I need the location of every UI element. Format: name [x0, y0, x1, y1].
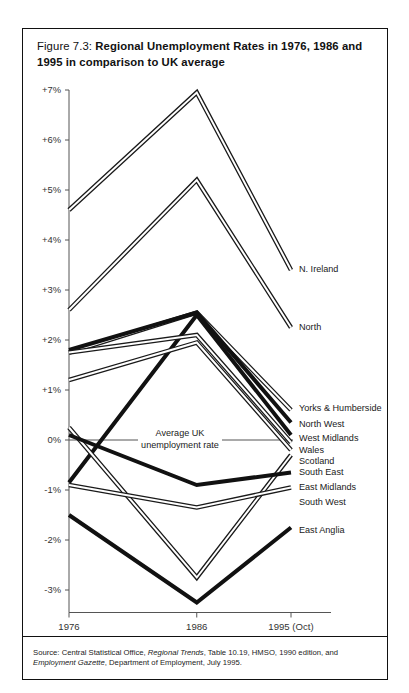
- x-axis: 197619861995 (Oct): [58, 613, 331, 632]
- source-mid: , Table 10.19, HMSO, 1990 edition, and: [204, 648, 338, 657]
- series-label-east-anglia: East Anglia: [299, 525, 345, 535]
- series-label-south-east: South East: [299, 467, 344, 477]
- series-line-wales: [69, 335, 291, 443]
- y-tick-label: -3%: [44, 584, 61, 595]
- series-label-west-midlands: West Midlands: [299, 433, 359, 443]
- x-tick-label: 1995 (Oct): [268, 621, 313, 632]
- y-tick-label: +6%: [42, 134, 61, 145]
- annotation-line2: unemployment rate: [141, 440, 219, 450]
- series-label-yorks-humberside: Yorks & Humberside: [299, 403, 382, 413]
- series-label-wales: Wales: [299, 445, 324, 455]
- y-tick-label: +4%: [42, 234, 61, 245]
- series-line-wales-core: [69, 335, 291, 443]
- x-tick-label: 1986: [186, 621, 207, 632]
- y-tick-label: -2%: [44, 534, 61, 545]
- series-label-south-west: South West: [299, 497, 346, 507]
- series-line-north: [69, 180, 291, 328]
- source-italic-regional-trends: Regional Trends: [148, 648, 204, 657]
- series-line-n-ireland: [69, 93, 291, 271]
- source-note: Source: Central Statistical Office, Regi…: [33, 648, 379, 669]
- x-tick-label: 1976: [58, 621, 79, 632]
- annotation-line1: Average UK: [156, 428, 205, 438]
- series-label-east-midlands: East Midlands: [299, 482, 357, 492]
- average-uk-annotation: Average UKunemployment rate: [138, 427, 222, 451]
- y-axis: +7%+6%+5%+4%+3%+2%+1%0%-1%-2%-3%: [42, 84, 69, 612]
- series-line-north-core: [69, 180, 291, 328]
- source-suffix: , Department of Employment, July 1995.: [105, 658, 242, 667]
- series-label-scotland: Scotland: [299, 456, 334, 466]
- y-tick-label: +2%: [42, 334, 61, 345]
- source-italic-employment-gazette: Employment Gazette: [33, 658, 105, 667]
- y-tick-label: -1%: [44, 484, 61, 495]
- y-tick-label: +1%: [42, 384, 61, 395]
- source-prefix: Source: Central Statistical Office,: [33, 648, 148, 657]
- series-label-north: North: [299, 322, 321, 332]
- figure-frame: Figure 7.3: Regional Unemployment Rates …: [22, 28, 388, 680]
- y-tick-label: +3%: [42, 284, 61, 295]
- y-tick-label: 0%: [47, 434, 61, 445]
- series-label-north-west: North West: [299, 419, 345, 429]
- y-tick-label: +7%: [42, 84, 61, 95]
- series-label-n-ireland: N. Ireland: [299, 264, 338, 274]
- series-labels: N. IrelandNorthYorks & HumbersideNorth W…: [299, 264, 382, 535]
- y-tick-label: +5%: [42, 184, 61, 195]
- chart-plot-area: +7%+6%+5%+4%+3%+2%+1%0%-1%-2%-3% 1976198…: [23, 29, 389, 681]
- series-lines: [69, 93, 291, 603]
- source-divider: [23, 636, 387, 637]
- line-chart: +7%+6%+5%+4%+3%+2%+1%0%-1%-2%-3% 1976198…: [23, 29, 389, 681]
